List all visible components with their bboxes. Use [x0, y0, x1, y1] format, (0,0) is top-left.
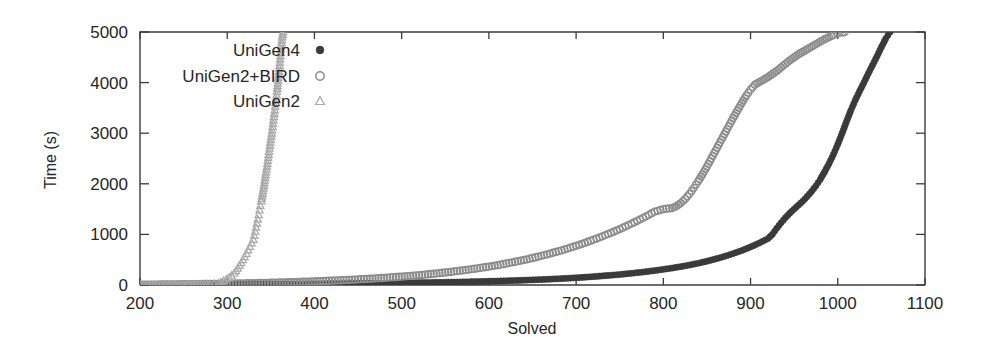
y-tick-label: 3000: [90, 124, 128, 143]
x-tick-label: 600: [475, 294, 503, 313]
time-vs-solved-scatter-plot: 20030040050060070080090010001100 0100020…: [0, 0, 994, 345]
legend-label-unigen2: UniGen2: [233, 92, 300, 111]
y-tick-label: 0: [119, 276, 128, 295]
legend-label-unigen2-bird: UniGen2+BIRD: [182, 67, 300, 86]
x-tick-label: 1000: [819, 294, 857, 313]
legend-marker-unigen2-bird: [316, 72, 324, 80]
y-tick-label: 2000: [90, 175, 128, 194]
x-tick-label: 400: [300, 294, 328, 313]
legend-marker-unigen2: [316, 97, 325, 105]
cactus-plot-figure: 20030040050060070080090010001100 0100020…: [0, 0, 994, 345]
x-tick-label: 900: [736, 294, 764, 313]
data-point: [316, 97, 325, 105]
x-tick-label: 1100: [907, 294, 944, 313]
x-tick-label: 500: [387, 294, 415, 313]
y-tick-label: 5000: [90, 23, 128, 42]
x-axis-tick-labels: 20030040050060070080090010001100: [126, 294, 943, 313]
legend-label-unigen4: UniGen4: [233, 41, 300, 60]
data-point: [316, 46, 324, 54]
y-tick-label: 1000: [90, 225, 128, 244]
data-point: [316, 72, 324, 80]
plot-legend: UniGen4UniGen2+BIRDUniGen2: [182, 41, 324, 111]
legend-marker-unigen4: [316, 46, 324, 54]
x-tick-label: 700: [562, 294, 590, 313]
x-axis-title: Solved: [508, 320, 557, 337]
data-point: [887, 29, 893, 35]
x-tick-label: 200: [126, 294, 154, 313]
y-tick-label: 4000: [90, 74, 128, 93]
y-axis-tick-labels: 010002000300040005000: [90, 23, 128, 295]
x-tick-label: 800: [649, 294, 677, 313]
x-tick-label: 300: [213, 294, 241, 313]
y-axis-title: Time (s): [42, 131, 59, 189]
